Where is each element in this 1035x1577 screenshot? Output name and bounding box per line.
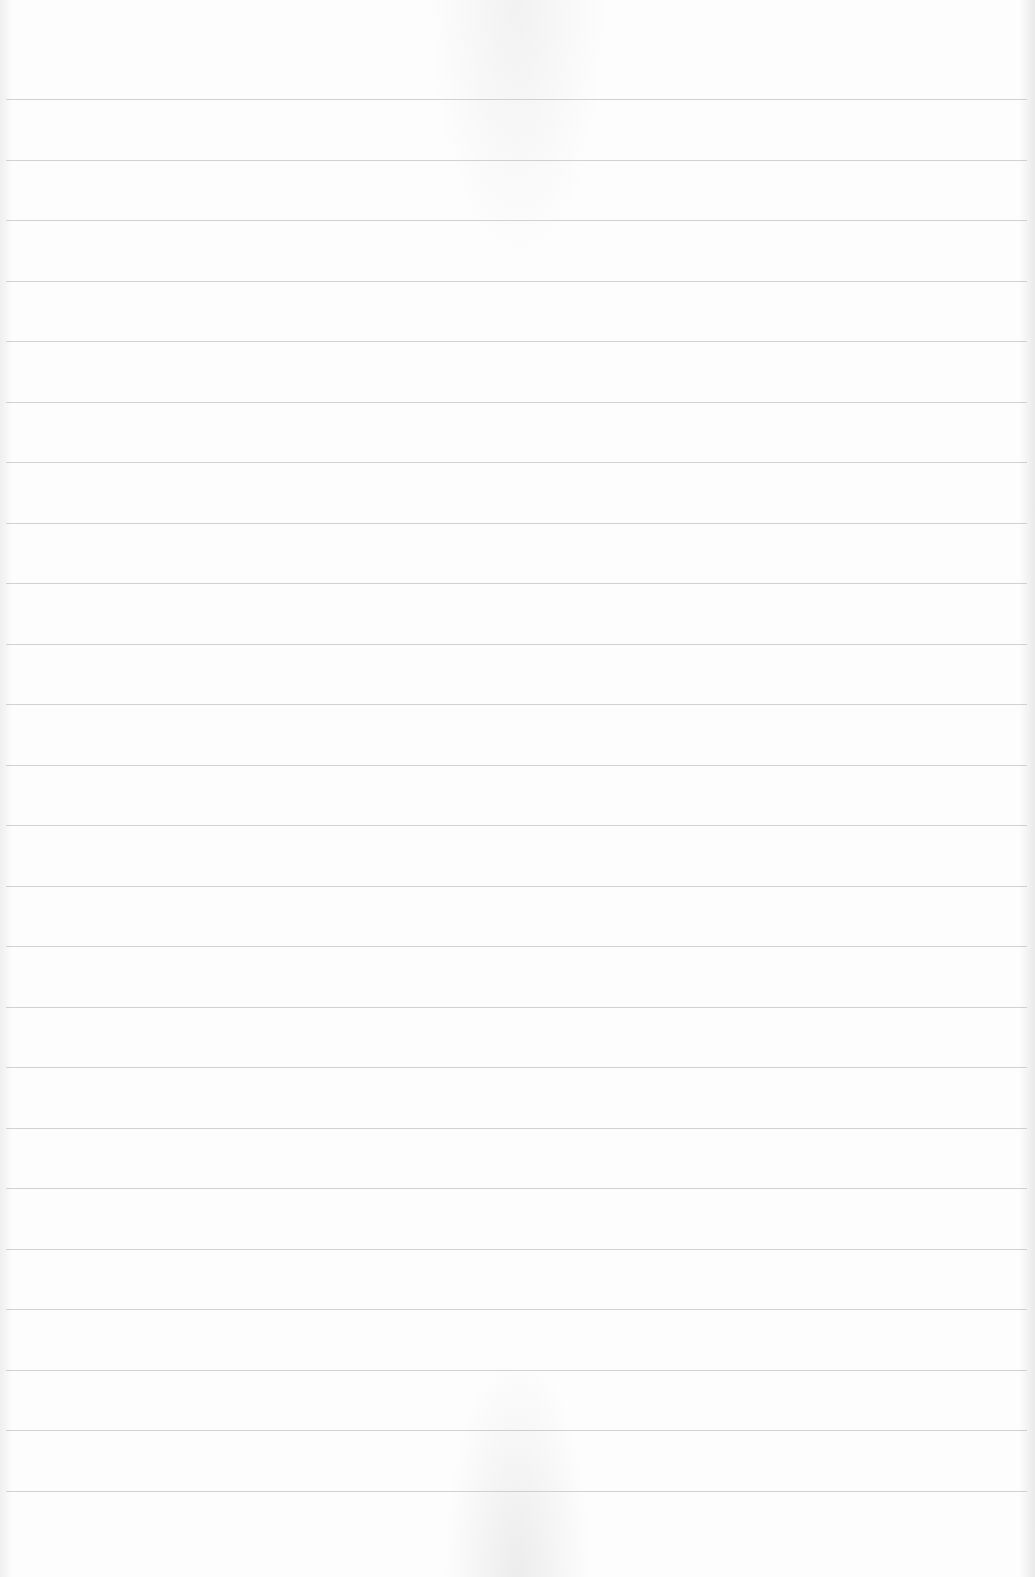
ruled-line — [6, 1249, 1027, 1250]
ruled-line — [6, 220, 1027, 221]
ruled-line — [6, 341, 1027, 342]
ruled-line — [6, 1128, 1027, 1129]
ruled-line — [6, 160, 1027, 161]
ruled-line — [6, 1430, 1027, 1431]
ruled-line — [6, 704, 1027, 705]
ruled-line — [6, 1370, 1027, 1371]
ruled-line — [6, 583, 1027, 584]
ruled-line — [6, 825, 1027, 826]
ruled-paper-sheet — [0, 0, 1035, 1577]
ruled-line — [6, 1188, 1027, 1189]
ruled-line — [6, 281, 1027, 282]
ruled-line — [6, 765, 1027, 766]
ruled-line — [6, 99, 1027, 100]
ruled-line — [6, 462, 1027, 463]
ruled-line — [6, 1491, 1027, 1492]
ruled-line — [6, 644, 1027, 645]
ruled-line — [6, 1007, 1027, 1008]
ruled-line — [6, 402, 1027, 403]
ruled-line — [6, 886, 1027, 887]
ruled-line — [6, 946, 1027, 947]
ruled-line — [6, 523, 1027, 524]
ruled-line — [6, 1309, 1027, 1310]
ruled-line — [6, 1067, 1027, 1068]
